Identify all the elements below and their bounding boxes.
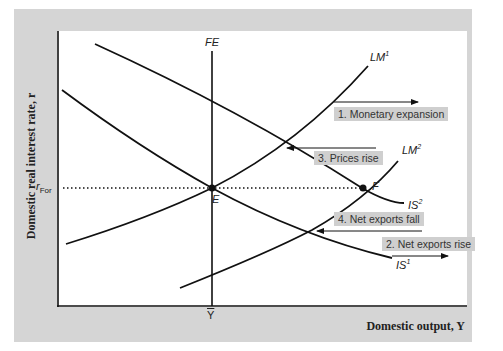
is2-curve xyxy=(95,44,404,203)
lm1-label: LM1 xyxy=(370,50,389,63)
point-f-label: F xyxy=(372,180,379,192)
point-e xyxy=(209,185,216,192)
is2-label: IS2 xyxy=(408,198,422,211)
point-e-label: E xyxy=(212,193,219,205)
point-f xyxy=(360,185,367,192)
is-lm-fe-diagram xyxy=(0,0,503,351)
r-for-tick: rFor xyxy=(36,180,52,195)
x-axis-label: Domestic output, Y xyxy=(366,319,465,334)
y-bar-tick: Y xyxy=(207,309,214,321)
label-monetary-expansion: 1. Monetary expansion xyxy=(334,107,448,121)
label-prices-rise: 3. Prices rise xyxy=(314,151,383,165)
label-net-exports-rise: 2. Net exports rise xyxy=(382,237,475,251)
label-net-exports-fall: 4. Net exports fall xyxy=(334,212,424,226)
y-axis-label: Domestic real interest rate, r xyxy=(14,31,48,301)
lm2-label: LM2 xyxy=(402,143,421,156)
is1-label: IS1 xyxy=(396,258,410,271)
fe-label: FE xyxy=(205,36,219,48)
